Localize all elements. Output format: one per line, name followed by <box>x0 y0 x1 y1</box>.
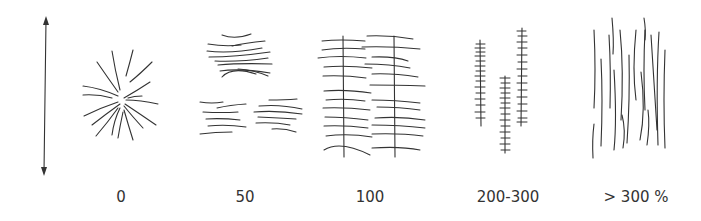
diagram-canvas <box>0 0 701 221</box>
label-0: 0 <box>116 188 126 206</box>
panel-50-aligned-bundles <box>200 34 302 134</box>
label-100: 100 <box>356 188 385 206</box>
label-50: 50 <box>235 188 254 206</box>
panel-100-threaded-fibers <box>318 36 425 157</box>
double-arrow-vertical-icon <box>41 16 49 176</box>
panel-300-plus-aligned-fibers <box>593 18 665 158</box>
label-200-300: 200-300 <box>477 188 540 206</box>
panel-0-radial-fibers <box>83 50 158 140</box>
label-300-plus: > 300 % <box>604 188 669 206</box>
panel-200-300-shish-kebab <box>475 28 527 153</box>
